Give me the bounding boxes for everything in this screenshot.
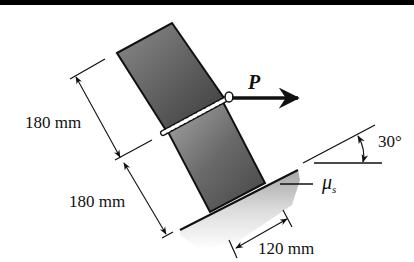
upper-dimension-label: 180 mm (25, 114, 81, 131)
base-dimension-label: 120 mm (258, 240, 314, 257)
force-label: P (248, 72, 260, 92)
mu-subscript: s (332, 183, 336, 195)
friction-coefficient-label: μs (322, 172, 336, 195)
angle-label: 30° (378, 133, 402, 150)
angle-indicator (303, 125, 382, 163)
lower-dimension-label: 180 mm (69, 193, 125, 210)
top-border (0, 0, 414, 5)
mu-symbol: μ (322, 171, 332, 193)
